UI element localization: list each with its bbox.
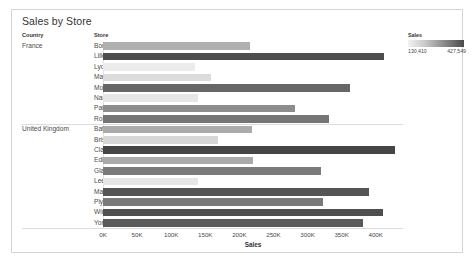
sales-bar[interactable] xyxy=(103,74,211,82)
x-axis-tick-label: 250K xyxy=(266,231,280,238)
sales-bar[interactable] xyxy=(103,53,384,61)
table-row[interactable]: Lille xyxy=(22,51,403,61)
x-axis-tick-label: 200K xyxy=(232,231,246,238)
table-row[interactable]: Bristol xyxy=(22,135,403,145)
legend-title: Sales xyxy=(408,32,466,38)
table-row[interactable]: Bath xyxy=(22,124,403,134)
table-row[interactable]: Nantes xyxy=(22,93,403,103)
table-row[interactable]: Leeds xyxy=(22,176,403,186)
sales-bar[interactable] xyxy=(103,105,295,113)
x-axis: Sales 0K50K100K150K200K250K300K350K400K xyxy=(22,228,403,252)
column-header-country: Country xyxy=(22,32,43,38)
sales-bar[interactable] xyxy=(103,178,198,186)
legend-scale: 130,410 427,549 xyxy=(408,48,466,56)
column-header-store: Store xyxy=(94,32,108,38)
table-row[interactable]: Plymouth xyxy=(22,197,403,207)
sales-bar[interactable] xyxy=(103,94,198,102)
sales-bar[interactable] xyxy=(103,136,218,144)
sales-bar[interactable] xyxy=(103,63,195,71)
table-row[interactable]: York xyxy=(22,218,403,228)
table-row[interactable]: Clapham xyxy=(22,145,403,155)
x-axis-tick-label: 300K xyxy=(300,231,314,238)
x-axis-tick-label: 350K xyxy=(334,231,348,238)
sales-bar[interactable] xyxy=(103,209,383,217)
axis-rule xyxy=(22,228,403,229)
table-row[interactable]: Marseille xyxy=(22,72,403,82)
table-row[interactable]: Glasgow xyxy=(22,166,403,176)
sales-bar[interactable] xyxy=(103,42,250,50)
table-row[interactable]: Montpellier xyxy=(22,83,403,93)
sales-bar[interactable] xyxy=(103,188,369,196)
sales-bar[interactable] xyxy=(103,219,363,227)
sales-bar[interactable] xyxy=(103,126,252,134)
chart-panel: FranceBordeauxLilleLyonMarseilleMontpell… xyxy=(22,41,403,228)
sales-bar[interactable] xyxy=(103,115,329,123)
legend-min-value: 130,410 xyxy=(408,48,427,54)
legend-gradient-ramp xyxy=(408,40,464,47)
x-axis-title: Sales xyxy=(103,241,403,248)
page-title: Sales by Store xyxy=(22,15,92,27)
table-row[interactable]: Paris xyxy=(22,103,403,113)
sales-bar[interactable] xyxy=(103,167,321,175)
table-row[interactable]: Manchester xyxy=(22,187,403,197)
x-axis-tick-label: 0K xyxy=(99,231,107,238)
x-axis-tick-label: 100K xyxy=(164,231,178,238)
column-header-row: Country Store xyxy=(22,32,392,41)
table-row[interactable]: Rouen xyxy=(22,114,403,124)
x-axis-tick-label: 400K xyxy=(368,231,382,238)
table-row[interactable]: Edinburgh xyxy=(22,155,403,165)
viz-container: Sales by Store Country Store FranceBorde… xyxy=(11,9,463,253)
color-legend: Sales 130,410 427,549 xyxy=(408,32,466,56)
sales-bar[interactable] xyxy=(103,84,350,92)
sales-bar[interactable] xyxy=(103,146,395,154)
sales-bar[interactable] xyxy=(103,157,253,165)
x-axis-tick-label: 50K xyxy=(132,231,143,238)
table-row[interactable]: Lyon xyxy=(22,62,403,72)
x-axis-tick-label: 150K xyxy=(198,231,212,238)
table-row[interactable]: Wimbledon xyxy=(22,207,403,217)
legend-max-value: 427,549 xyxy=(447,48,466,54)
table-row[interactable]: Bordeaux xyxy=(22,41,403,51)
sales-bar[interactable] xyxy=(103,198,323,206)
